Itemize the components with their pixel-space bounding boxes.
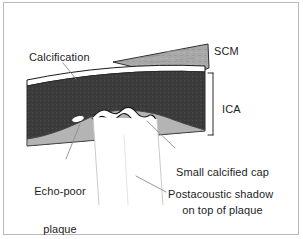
ica-bracket	[208, 73, 213, 135]
label-calcified-cap-line1: Small calcified cap	[176, 166, 269, 179]
label-ica: ICA	[222, 103, 241, 116]
label-postacoustic-shadow: Postacoustic shadow	[168, 188, 273, 201]
label-echo-poor-line1: Echo-poor	[22, 185, 98, 198]
label-scm: SCM	[214, 45, 239, 58]
label-calcified-cap-line2: on top of plaque	[176, 204, 269, 217]
figure-container: Calcification SCM ICA Small calcified ca…	[0, 0, 303, 239]
label-echo-poor-plaque: Echo-poor plaque	[22, 160, 98, 239]
label-calcification: Calcification	[29, 51, 90, 64]
label-echo-poor-line2: plaque	[22, 223, 98, 236]
postacoustic-shadow-shape	[93, 117, 163, 205]
